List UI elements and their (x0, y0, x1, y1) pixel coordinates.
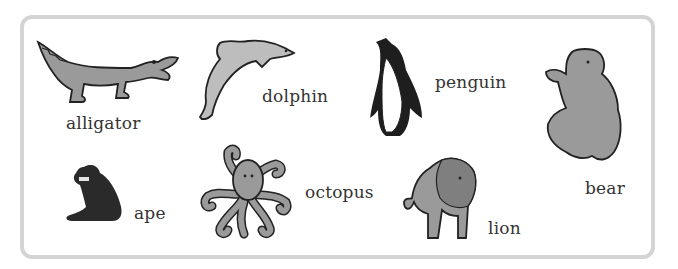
lion-picture (402, 154, 482, 244)
dolphin-picture (198, 37, 298, 122)
alligator-label: alligator (66, 113, 140, 133)
bear-picture (544, 48, 624, 168)
octopus-picture (196, 144, 296, 239)
bear-label: bear (585, 178, 625, 198)
penguin-picture (370, 36, 430, 141)
lion-label: lion (488, 218, 521, 238)
penguin-label: penguin (435, 72, 507, 92)
octopus-label: octopus (305, 182, 374, 202)
ape-picture (64, 163, 126, 225)
ape-label: ape (134, 203, 166, 223)
alligator-picture (36, 38, 181, 108)
dolphin-label: dolphin (262, 86, 328, 106)
